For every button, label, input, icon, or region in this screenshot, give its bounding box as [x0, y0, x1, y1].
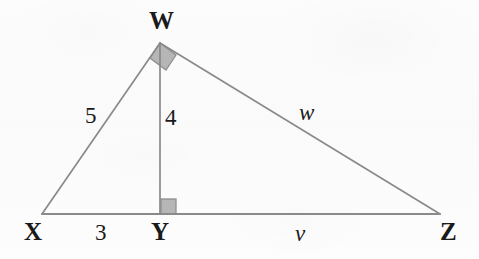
geometry-figure: W X Y Z 5 4 3 w v	[0, 0, 479, 259]
segment-label-yz: v	[295, 222, 305, 245]
segment-label-wy: 4	[165, 106, 177, 129]
segment-label-xy: 3	[95, 221, 107, 244]
vertex-label-y: Y	[151, 219, 169, 244]
vertex-label-z: Z	[440, 219, 457, 244]
segment-wz	[160, 43, 440, 214]
segment-label-wz: w	[299, 101, 314, 124]
segment-xw	[42, 43, 160, 214]
segment-label-xw: 5	[85, 104, 97, 127]
right-angle-marker-y	[161, 199, 176, 214]
vertex-label-x: X	[24, 219, 42, 244]
right-angle-marker-w	[150, 43, 176, 70]
triangle-drawing	[0, 0, 479, 259]
vertex-label-w: W	[149, 8, 174, 33]
